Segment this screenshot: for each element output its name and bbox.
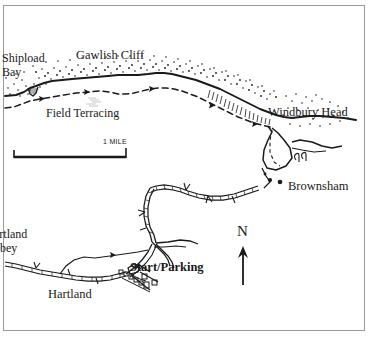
road-brownsham-west-edge-a [150,185,258,196]
label-hartland-abbey-line1: artland [0,228,27,241]
label-shipload-bay-line2: Bay [2,66,21,79]
label-hartland: Hartland [48,288,92,301]
label-north: N [237,224,248,240]
brownsham-track [262,168,270,188]
label-field-terracing: Field Terracing [46,107,119,120]
windbury-headland-outline [263,126,292,170]
brownsham-valley-stream-branch [292,148,326,152]
road-descend-edge-b [148,189,156,243]
lane-valley-connector [95,250,148,258]
label-windbury-head: Windbury Head [268,106,348,119]
road-hartland-west-edge-b [5,266,126,281]
label-brownsham: Brownsham [288,180,348,193]
headland-inner-dashed-path [270,130,280,166]
map-container: Shipload Bay Gawlish Cliff Field Terraci… [0,0,370,338]
road-branch-north [60,257,95,274]
brownsham-valley-stream [292,140,342,148]
brownsham-markers [264,173,283,185]
label-hartland-abbey-line2: bbey [0,242,17,255]
label-start-parking: Start/Parking [130,261,204,274]
scale-bar [14,148,126,158]
label-shipload-bay-line1: Shipload [2,52,45,65]
north-arrow [238,246,248,285]
field-sketch-marks [86,98,101,106]
label-gawlish-cliff: Gawlish Cliff [76,49,144,62]
lane-east-branch [156,240,198,244]
woodland-symbol [295,152,307,162]
lane-valley-arrow [110,252,116,258]
label-scale-1-mile: 1 MILE [103,138,127,145]
